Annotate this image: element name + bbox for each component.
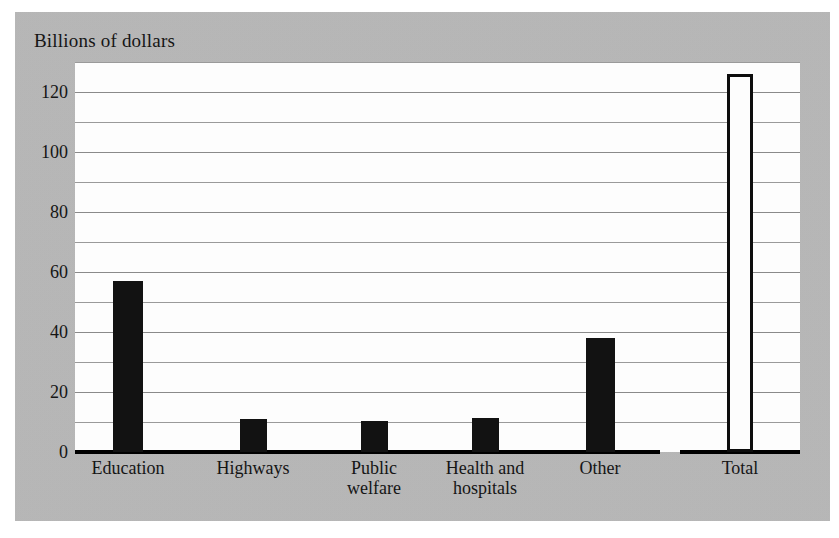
bar xyxy=(472,418,499,453)
y-tick-label: 80 xyxy=(10,202,68,223)
bar xyxy=(727,74,753,452)
y-tick-label: 40 xyxy=(10,322,68,343)
y-axis-tick-labels: 020406080100120 xyxy=(0,0,68,538)
y-tick-label: 100 xyxy=(10,142,68,163)
chart-figure: Billions of dollars 020406080100120 Educ… xyxy=(0,0,839,538)
y-tick-label: 0 xyxy=(10,442,68,463)
x-tick-label: Public welfare xyxy=(347,458,401,498)
bar xyxy=(113,281,143,452)
x-tick-label: Total xyxy=(722,458,759,478)
y-tick-label: 20 xyxy=(10,382,68,403)
bar xyxy=(361,421,388,453)
x-tick-label: Education xyxy=(92,458,165,478)
bar xyxy=(586,338,615,452)
y-tick-label: 60 xyxy=(10,262,68,283)
x-tick-label: Health and hospitals xyxy=(446,458,524,498)
y-tick-label: 120 xyxy=(10,82,68,103)
x-tick-label: Highways xyxy=(217,458,290,478)
bars-group xyxy=(75,62,800,452)
x-tick-label: Other xyxy=(580,458,621,478)
bar xyxy=(240,419,267,452)
